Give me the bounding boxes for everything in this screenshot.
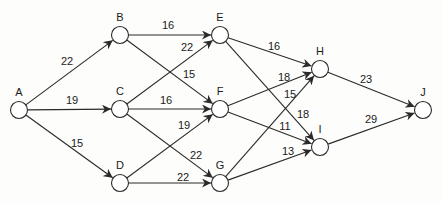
edge-weight-c-e: 22 xyxy=(181,41,193,53)
edge-f-h xyxy=(228,72,312,106)
edge-g-i xyxy=(228,150,312,180)
edge-weight-c-g: 22 xyxy=(190,149,202,161)
edge-weight-h-j: 23 xyxy=(360,73,372,85)
network-diagram: 221915161522162219221618181115132329 ABC… xyxy=(0,0,443,203)
edge-weight-b-f: 15 xyxy=(183,68,195,80)
edge-weight-f-h: 18 xyxy=(278,71,290,83)
node-label-d: D xyxy=(116,159,124,171)
edge-weight-g-h: 15 xyxy=(284,88,296,100)
edge-weight-e-i: 18 xyxy=(297,108,309,120)
edge-weight-d-g: 22 xyxy=(177,171,189,183)
edge-weight-a-b: 22 xyxy=(61,55,73,67)
edge-weight-d-f: 19 xyxy=(178,119,190,131)
node-d xyxy=(112,175,129,192)
edge-weight-a-d: 15 xyxy=(71,137,83,149)
node-label-a: A xyxy=(15,86,23,98)
node-f xyxy=(212,101,229,118)
edge-weight-b-e: 16 xyxy=(162,19,174,31)
node-label-g: G xyxy=(216,159,225,171)
node-h xyxy=(312,61,329,78)
node-a xyxy=(11,102,28,119)
edge-weight-c-f: 16 xyxy=(160,94,172,106)
node-label-j: J xyxy=(420,86,426,98)
edge-weight-i-j: 29 xyxy=(365,113,377,125)
node-label-e: E xyxy=(216,11,223,23)
edge-a-c xyxy=(27,109,111,110)
network-svg: 221915161522162219221618181115132329 ABC… xyxy=(0,0,443,203)
node-g xyxy=(212,175,229,192)
node-label-h: H xyxy=(316,45,324,57)
node-label-i: I xyxy=(318,123,321,135)
edge-weight-a-c: 19 xyxy=(66,94,78,106)
node-label-b: B xyxy=(116,11,123,23)
node-i xyxy=(312,139,329,156)
node-j xyxy=(415,102,432,119)
node-e xyxy=(212,27,229,44)
node-label-c: C xyxy=(116,85,124,97)
edge-weight-e-h: 16 xyxy=(268,40,280,52)
edge-weight-g-i: 13 xyxy=(282,145,294,157)
edge-a-d xyxy=(26,115,113,178)
node-label-f: F xyxy=(217,85,224,97)
node-c xyxy=(112,101,129,118)
node-b xyxy=(112,27,129,44)
edge-weight-f-i: 11 xyxy=(279,120,290,132)
